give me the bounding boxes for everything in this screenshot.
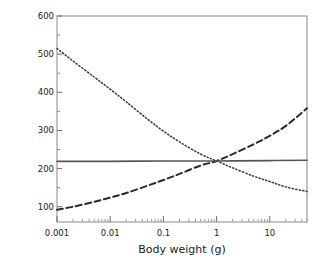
x-tick-label: 0.1 [157,228,171,238]
plot-frame [57,16,307,222]
x-tick-label: 0.01 [101,228,120,238]
chart-figure: 100200300400500600 0.0010.010.1110 Resou… [0,0,322,267]
x-axis-title: Body weight (g) [57,243,307,256]
x-tick-label: 10 [264,228,275,238]
x-tick-label: 1 [214,228,219,238]
y-tick-label: 100 [24,202,54,212]
y-tick-label: 300 [24,125,54,135]
series-line-dotted-declining [57,48,307,191]
x-tick-label: 0.001 [45,228,69,238]
data-series-group [57,48,307,209]
series-line-dashed-rising [57,108,307,209]
y-tick-label: 400 [24,87,54,97]
series-line-solid-flat [57,160,307,161]
y-tick-label: 500 [24,49,54,59]
y-tick-label: 200 [24,164,54,174]
y-tick-label: 600 [24,11,54,21]
y-axis-tick-labels: 100200300400500600 [22,0,54,267]
